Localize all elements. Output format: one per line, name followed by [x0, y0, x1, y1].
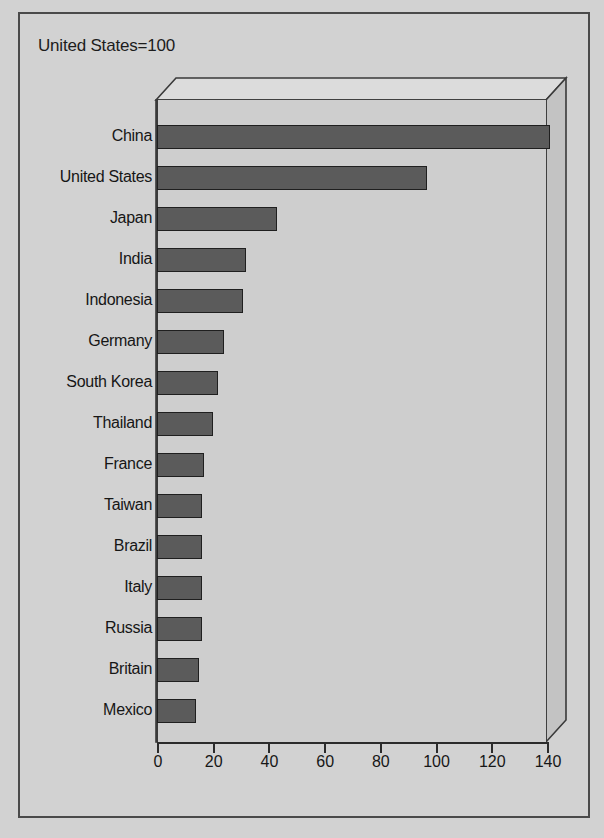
- x-ticklabel-120: 120: [479, 753, 506, 771]
- x-ticklabel-40: 40: [261, 753, 279, 771]
- category-label-russia: Russia: [20, 619, 152, 637]
- bar-series: [157, 100, 549, 742]
- bar-germany: [157, 330, 224, 354]
- bar-taiwan: [157, 494, 202, 518]
- bar-italy: [157, 576, 202, 600]
- category-label-mexico: Mexico: [20, 701, 152, 719]
- x-ticklabel-140: 140: [535, 753, 562, 771]
- category-label-brazil: Brazil: [20, 537, 152, 555]
- category-label-taiwan: Taiwan: [20, 496, 152, 514]
- bar-thailand: [157, 412, 213, 436]
- category-label-indonesia: Indonesia: [20, 291, 152, 309]
- bar-indonesia: [157, 289, 243, 313]
- bar-united-states: [157, 166, 427, 190]
- category-label-france: France: [20, 455, 152, 473]
- category-label-italy: Italy: [20, 578, 152, 596]
- x-ticklabel-100: 100: [423, 753, 450, 771]
- x-tick-20: [213, 744, 215, 753]
- x-ticklabel-20: 20: [205, 753, 223, 771]
- category-label-united-states: United States: [20, 168, 152, 186]
- chart-title: United States=100: [38, 36, 175, 56]
- category-label-japan: Japan: [20, 209, 152, 227]
- x-ticklabel-80: 80: [372, 753, 390, 771]
- x-ticklabel-0: 0: [154, 753, 163, 771]
- category-label-india: India: [20, 250, 152, 268]
- category-label-germany: Germany: [20, 332, 152, 350]
- category-label-thailand: Thailand: [20, 414, 152, 432]
- bar-france: [157, 453, 204, 477]
- x-ticklabel-60: 60: [316, 753, 334, 771]
- x-tick-40: [268, 744, 270, 753]
- bar-south-korea: [157, 371, 218, 395]
- x-axis-tick-labels: 020406080100120140: [157, 753, 549, 777]
- category-label-china: China: [20, 127, 152, 145]
- bar-japan: [157, 207, 277, 231]
- category-axis-labels: ChinaUnited StatesJapanIndiaIndonesiaGer…: [20, 100, 152, 742]
- x-tick-0: [157, 744, 159, 753]
- x-tick-140: [547, 744, 549, 753]
- x-tick-100: [436, 744, 438, 753]
- bar-britain: [157, 658, 199, 682]
- bar-mexico: [157, 699, 196, 723]
- bar-russia: [157, 617, 202, 641]
- category-label-britain: Britain: [20, 660, 152, 678]
- bar-brazil: [157, 535, 202, 559]
- bar-india: [157, 248, 246, 272]
- x-tick-120: [491, 744, 493, 753]
- chart-figure: United States=100 ChinaUnited StatesJapa…: [0, 0, 604, 838]
- x-tick-60: [324, 744, 326, 753]
- bar-china: [157, 125, 550, 149]
- x-tick-80: [380, 744, 382, 753]
- category-label-south-korea: South Korea: [20, 373, 152, 391]
